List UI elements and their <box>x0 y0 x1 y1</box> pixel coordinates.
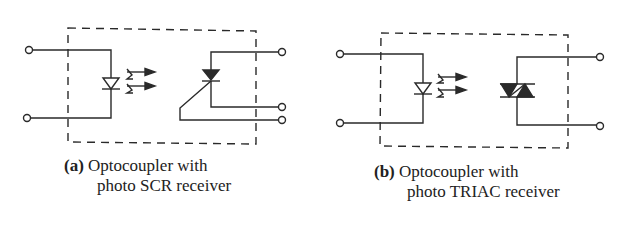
output-terminal-mt2 <box>597 54 604 61</box>
caption-tag: (a) <box>64 156 84 175</box>
led-icon <box>102 78 120 89</box>
output-terminal-mt1 <box>597 123 604 130</box>
input-terminal-bottom <box>337 120 344 127</box>
input-wire-bottom <box>344 94 424 123</box>
optocoupler-triac-diagram <box>337 33 604 148</box>
output-terminal-cathode <box>279 104 286 111</box>
scr-cathode-wire <box>211 81 279 107</box>
light-emission-arrows-icon <box>127 69 155 94</box>
light-emission-arrows-icon <box>438 74 466 98</box>
output-terminal-gate <box>279 117 286 124</box>
led-icon <box>414 83 432 94</box>
caption-line-2: photo TRIAC receiver <box>374 182 560 202</box>
caption-b: (b) Optocoupler with photo TRIAC receive… <box>374 162 560 202</box>
package-outline-dashed <box>380 33 568 148</box>
input-wire-top <box>344 54 424 83</box>
caption-a: (a) Optocoupler with photo SCR receiver <box>64 156 231 196</box>
caption-line-1: Optocoupler with <box>88 156 207 175</box>
input-terminal-top <box>26 47 33 54</box>
optocoupler-scr-diagram <box>24 28 286 144</box>
input-wire-top <box>33 50 112 78</box>
package-outline-dashed <box>68 28 256 144</box>
triac-mt2-wire <box>517 57 597 84</box>
input-wire-bottom <box>31 89 112 118</box>
output-terminal-anode <box>279 49 286 56</box>
caption-line-1: Optocoupler with <box>399 162 518 181</box>
caption-tag: (b) <box>374 162 395 181</box>
caption-line-2: photo SCR receiver <box>64 176 231 196</box>
triac-icon <box>500 84 535 97</box>
scr-anode-wire <box>211 52 279 70</box>
scr-gate-wire <box>180 81 279 120</box>
triac-mt1-wire <box>517 97 597 125</box>
input-terminal-bottom <box>24 115 31 122</box>
scr-thyristor-icon <box>202 70 220 81</box>
input-terminal-top <box>337 51 344 58</box>
